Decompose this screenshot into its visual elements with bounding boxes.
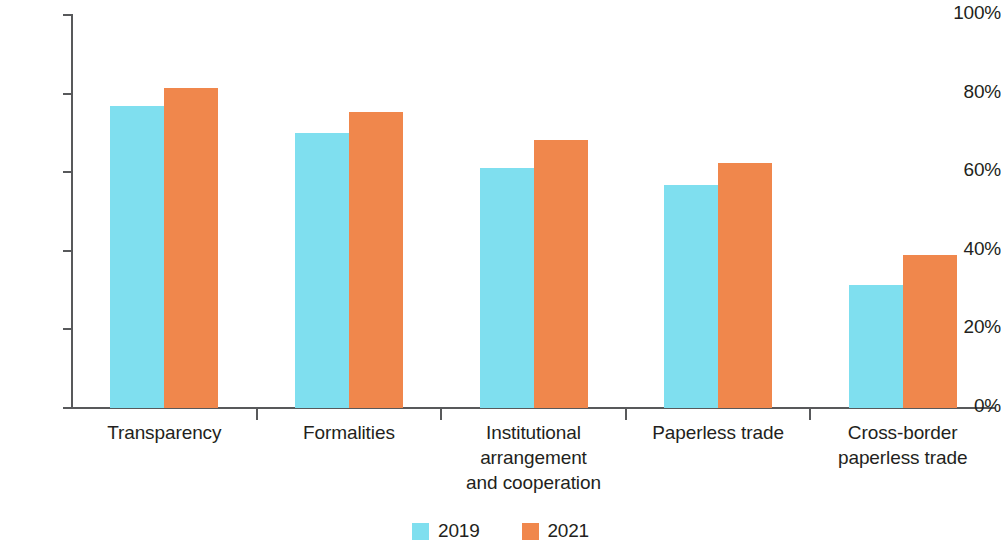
bar-2019-4[interactable] (849, 285, 903, 408)
bar-2019-0[interactable] (110, 106, 164, 408)
chart-legend: 2019 2021 (0, 520, 1001, 542)
y-axis-tick (63, 328, 72, 330)
x-axis-tick (809, 409, 811, 420)
category-label-line: and cooperation (441, 470, 626, 495)
bar-2019-2[interactable] (480, 168, 534, 408)
x-axis-tick (256, 409, 258, 420)
bar-2021-4[interactable] (903, 255, 957, 408)
category-label-line: Institutional (441, 420, 626, 445)
bar-2021-3[interactable] (718, 163, 772, 408)
category-label: Institutionalarrangementand cooperation (441, 420, 626, 495)
bar-2021-1[interactable] (349, 112, 403, 408)
bar-2019-3[interactable] (664, 185, 718, 408)
legend-item-2021[interactable]: 2021 (522, 520, 589, 542)
bar-2019-1[interactable] (295, 133, 349, 408)
y-axis-tick (63, 250, 72, 252)
legend-item-2019[interactable]: 2019 (412, 520, 479, 542)
y-axis-tick (63, 14, 72, 16)
category-label-line: arrangement (441, 445, 626, 470)
legend-label-2021: 2021 (548, 520, 589, 542)
category-label: Formalities (257, 420, 442, 445)
bar-2021-0[interactable] (164, 88, 218, 408)
bar-2021-2[interactable] (534, 140, 588, 408)
plot-area (72, 15, 995, 408)
category-label-line: Transparency (72, 420, 257, 445)
y-axis-tick (63, 407, 72, 409)
y-axis-tick (63, 93, 72, 95)
category-label: Cross-borderpaperless trade (810, 420, 995, 470)
category-label-line: Paperless trade (626, 420, 811, 445)
category-label-line: Formalities (257, 420, 442, 445)
category-label-line: paperless trade (810, 445, 995, 470)
legend-swatch-icon-2019 (412, 523, 429, 540)
legend-swatch-icon-2021 (522, 523, 539, 540)
legend-label-2019: 2019 (438, 520, 479, 542)
category-label: Paperless trade (626, 420, 811, 445)
grouped-bar-chart: 0%20%40%60%80%100% TransparencyFormaliti… (0, 0, 1001, 551)
category-label-line: Cross-border (810, 420, 995, 445)
category-label: Transparency (72, 420, 257, 445)
x-axis-tick (440, 409, 442, 420)
y-axis-tick (63, 171, 72, 173)
x-axis-tick (625, 409, 627, 420)
